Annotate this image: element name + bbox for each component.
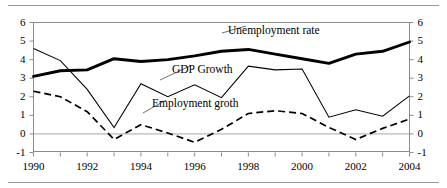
series-annotation-2: Employment groth <box>152 97 239 109</box>
y-axis-right-tick-label: 3 <box>418 72 440 83</box>
chart-figure: 6543210-1 6543210-1 19901992199419961998… <box>0 0 447 188</box>
x-axis-tick-label: 1998 <box>228 160 268 172</box>
x-axis-tick-label: 1992 <box>67 160 107 172</box>
y-axis-right-tick-label: 4 <box>418 54 440 65</box>
y-axis-left-tick-label: 3 <box>4 72 26 83</box>
series-line-1 <box>34 49 410 128</box>
y-axis-left-ticks <box>30 23 34 153</box>
y-axis-left-tick-label: 0 <box>4 128 26 139</box>
x-axis-tick-label: 1994 <box>121 160 161 172</box>
y-axis-left-tick-label: 2 <box>4 91 26 102</box>
y-axis-right-tick-label: 0 <box>418 128 440 139</box>
x-axis-tick-label: 2004 <box>390 160 430 172</box>
y-axis-right-tick-label: 2 <box>418 91 440 102</box>
x-axis-tick-label: 2002 <box>336 160 376 172</box>
series-annotation-0: Unemployment rate <box>228 24 320 36</box>
x-axis-ticks <box>34 153 410 157</box>
y-axis-left-tick-label: 5 <box>4 35 26 46</box>
x-axis-tick-label: 2000 <box>282 160 322 172</box>
y-axis-right-tick-label: 6 <box>418 17 440 28</box>
y-axis-right-tick-label: 1 <box>418 109 440 120</box>
y-axis-left-tick-label: -1 <box>4 147 26 158</box>
y-axis-right-tick-label: 5 <box>418 35 440 46</box>
y-axis-left-tick-label: 1 <box>4 109 26 120</box>
y-axis-right-tick-label: -1 <box>418 147 440 158</box>
series-lines <box>34 42 410 142</box>
y-axis-left-tick-label: 6 <box>4 17 26 28</box>
y-axis-left-tick-label: 4 <box>4 54 26 65</box>
series-annotation-1: GDP Growth <box>172 63 233 75</box>
x-axis-tick-label: 1996 <box>175 160 215 172</box>
x-axis-tick-label: 1990 <box>14 160 54 172</box>
